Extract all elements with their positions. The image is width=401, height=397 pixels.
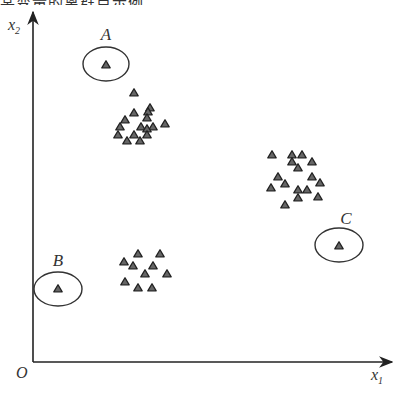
triangle-marker-icon xyxy=(141,270,149,277)
triangle-marker-icon xyxy=(130,131,138,138)
triangle-marker-icon xyxy=(288,151,296,158)
triangle-marker-icon xyxy=(148,284,156,291)
triangle-marker-icon xyxy=(114,131,122,138)
cluster-group xyxy=(114,89,169,144)
triangle-marker-icon xyxy=(274,173,282,180)
triangle-marker-icon xyxy=(308,158,316,165)
outlier-label: C xyxy=(340,209,352,228)
triangle-marker-icon xyxy=(120,258,128,265)
outlier-a: A xyxy=(83,25,129,81)
triangle-marker-icon xyxy=(121,116,129,123)
clusters xyxy=(114,89,324,291)
outlier-c: C xyxy=(315,209,363,262)
triangle-marker-icon xyxy=(314,193,322,200)
triangle-marker-icon xyxy=(149,262,157,269)
triangle-marker-icon xyxy=(288,158,296,165)
triangle-marker-icon xyxy=(129,262,137,269)
triangle-marker-icon xyxy=(121,278,129,285)
triangle-marker-icon xyxy=(316,179,324,186)
triangle-marker-icon xyxy=(116,123,124,130)
triangle-marker-icon xyxy=(161,120,169,127)
triangle-marker-icon xyxy=(134,250,142,257)
cluster-group xyxy=(120,250,171,291)
axes xyxy=(33,12,392,362)
outlier-b: B xyxy=(34,251,82,306)
outlier-label: A xyxy=(100,25,112,44)
triangle-marker-icon xyxy=(335,242,343,249)
triangle-marker-icon xyxy=(308,173,316,180)
triangle-marker-icon xyxy=(267,184,275,191)
y-axis-label: x2 xyxy=(7,16,20,36)
x-axis-label: x1 xyxy=(370,366,383,386)
cluster-group xyxy=(267,151,324,208)
outlier-label: B xyxy=(53,251,64,270)
triangle-marker-icon xyxy=(130,89,138,96)
triangle-marker-icon xyxy=(156,250,164,257)
triangle-marker-icon xyxy=(281,201,289,208)
triangle-marker-icon xyxy=(54,285,62,292)
triangle-marker-icon xyxy=(294,186,302,193)
triangle-marker-icon xyxy=(130,109,138,116)
triangle-marker-icon xyxy=(303,186,311,193)
triangle-marker-icon xyxy=(268,151,276,158)
triangle-marker-icon xyxy=(134,284,142,291)
triangle-marker-icon xyxy=(163,270,171,277)
axis-labels: x2x1O xyxy=(7,16,383,386)
triangle-marker-icon xyxy=(281,180,289,187)
triangle-marker-icon xyxy=(102,61,110,68)
scatter-figure: ABC x2x1O xyxy=(0,0,401,397)
triangle-marker-icon xyxy=(294,194,302,201)
triangle-marker-icon xyxy=(298,151,306,158)
origin-label: O xyxy=(16,364,28,381)
